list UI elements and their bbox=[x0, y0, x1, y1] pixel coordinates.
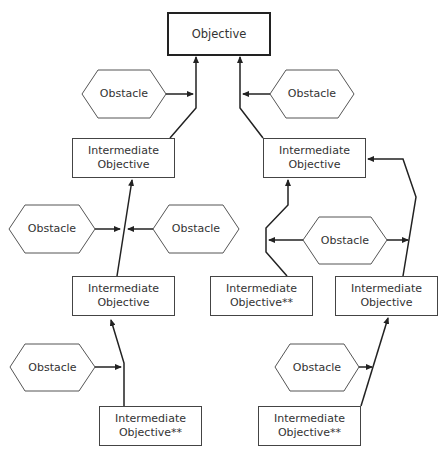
intermediate-objective-r2: IntermediateObjective bbox=[335, 276, 438, 316]
obstacle-mid-left-b: Obstacle bbox=[153, 205, 239, 253]
label: IntermediateObjective** bbox=[274, 412, 345, 440]
intermediate-objective-l3: IntermediateObjective** bbox=[99, 406, 202, 446]
label: IntermediateObjective bbox=[351, 282, 422, 310]
intermediate-objective-m2: IntermediateObjective** bbox=[210, 276, 313, 316]
label: IntermediateObjective bbox=[88, 144, 159, 172]
intermediate-objective-r1: IntermediateObjective bbox=[263, 138, 366, 178]
intermediate-objective-l2: IntermediateObjective bbox=[72, 276, 175, 316]
label: IntermediateObjective bbox=[279, 144, 350, 172]
obstacle-mid-right: Obstacle bbox=[303, 217, 387, 264]
obstacle-top-left: Obstacle bbox=[82, 70, 166, 118]
obstacle-mid-left-a: Obstacle bbox=[9, 205, 95, 253]
obstacle-bottom-right: Obstacle bbox=[275, 344, 359, 391]
label: IntermediateObjective bbox=[88, 282, 159, 310]
objective-box: Objective bbox=[167, 12, 271, 56]
intermediate-objective-r3: IntermediateObjective** bbox=[258, 406, 361, 446]
label: IntermediateObjective** bbox=[115, 412, 186, 440]
obstacle-top-right: Obstacle bbox=[270, 70, 354, 118]
obstacle-bottom-left: Obstacle bbox=[10, 344, 95, 391]
intermediate-objective-l1: IntermediateObjective bbox=[72, 138, 175, 178]
label: IntermediateObjective** bbox=[226, 282, 297, 310]
